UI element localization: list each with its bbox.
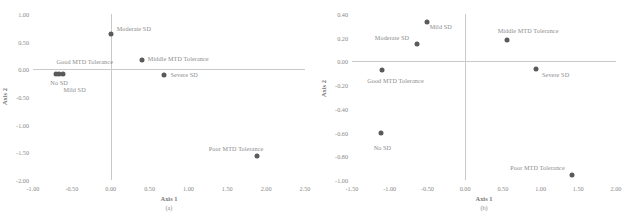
data-point [504, 38, 509, 43]
y-zero-axis-line [111, 14, 112, 180]
y-zero-axis-line [465, 14, 466, 180]
figure-canvas: 1.000.500.00-0.50-1.00-1.50-2.00-1.00-0.… [0, 0, 631, 219]
x-axis-tick-label: 1.00 [183, 185, 194, 192]
data-point-label: Poor MTD Tolerance [209, 146, 264, 152]
data-point-label: Middle MTD Tolerance [148, 56, 209, 62]
x-axis-tick-label: 1.00 [535, 185, 546, 192]
data-point-label: Middle MTD Tolerance [498, 28, 559, 34]
panel-caption: (a) [166, 204, 173, 211]
x-zero-axis-line [33, 69, 305, 70]
data-point-label: Moderate SD [375, 35, 409, 41]
x-axis-title: Axis 1 [476, 195, 493, 202]
data-point [534, 66, 539, 71]
y-axis-tick-label: -0.60 [322, 129, 348, 136]
data-point-label: No SD [374, 145, 392, 151]
y-axis-tick-label: -1.50 [3, 149, 29, 156]
y-axis-tick-label: 1.00 [3, 11, 29, 18]
data-point [424, 20, 429, 25]
data-point [380, 67, 385, 72]
y-axis-title: Axis 2 [320, 81, 327, 98]
x-axis-tick-label: 1.50 [222, 185, 233, 192]
data-point-label: Mild SD [430, 24, 452, 30]
plot-area-a: 1.000.500.00-0.50-1.00-1.50-2.00-1.00-0.… [33, 14, 305, 180]
x-axis-tick-label: -0.50 [421, 185, 434, 192]
x-axis-tick-label: 2.00 [261, 185, 272, 192]
x-axis-title: Axis 1 [161, 195, 178, 202]
data-point-label: Moderate SD [117, 26, 151, 32]
y-axis-tick-label: -0.80 [322, 153, 348, 160]
plot-area-b: 0.400.200.00-0.20-0.40-0.60-0.80-1.00-1.… [352, 14, 616, 180]
data-point-label: Good MTD Tolerance [56, 59, 113, 65]
y-axis-tick-label: -0.40 [322, 105, 348, 112]
y-axis-tick-label: -2.00 [3, 177, 29, 184]
data-point [254, 153, 259, 158]
x-axis-tick-label: -1.00 [383, 185, 396, 192]
x-axis-tick-label: 2.50 [300, 185, 311, 192]
chart-panel-b: 0.400.200.00-0.20-0.40-0.60-0.80-1.00-1.… [316, 0, 631, 219]
data-point [161, 73, 166, 78]
panel-caption: (b) [480, 204, 487, 211]
data-point [139, 57, 144, 62]
x-zero-axis-line [352, 61, 616, 62]
y-axis-title: Axis 2 [1, 88, 8, 105]
data-point [108, 31, 113, 36]
y-axis-tick-label: 0.40 [322, 11, 348, 18]
data-point-label: Severe SD [171, 72, 198, 78]
data-point [570, 173, 575, 178]
data-point-label: Good MTD Tolerance [367, 78, 424, 84]
x-axis-tick-label: 1.50 [573, 185, 584, 192]
data-point [60, 71, 65, 76]
y-axis-tick-label: 0.20 [322, 34, 348, 41]
y-axis-tick-label: 0.00 [322, 58, 348, 65]
x-axis-tick-label: 0.00 [105, 185, 116, 192]
x-axis-tick-label: -0.50 [65, 185, 78, 192]
y-axis-tick-label: -1.00 [3, 121, 29, 128]
x-axis-tick-label: 0.50 [497, 185, 508, 192]
data-point-label: Poor MTD Tolerance [510, 165, 565, 171]
data-point [54, 72, 59, 77]
x-axis-tick-label: 2.00 [611, 185, 622, 192]
y-axis-tick-label: 0.50 [3, 38, 29, 45]
data-point-label: Severe SD [542, 72, 569, 78]
x-axis-tick-label: -1.00 [27, 185, 40, 192]
x-axis-tick-label: 0.00 [460, 185, 471, 192]
y-axis-tick-label: -1.00 [322, 177, 348, 184]
x-axis-tick-label: 0.50 [144, 185, 155, 192]
y-axis-tick-label: 0.00 [3, 66, 29, 73]
chart-panel-a: 1.000.500.00-0.50-1.00-1.50-2.00-1.00-0.… [0, 0, 316, 219]
data-point [378, 130, 383, 135]
data-point-label: Mild SD [64, 87, 86, 93]
data-point [414, 41, 419, 46]
x-axis-tick-label: -1.50 [346, 185, 359, 192]
